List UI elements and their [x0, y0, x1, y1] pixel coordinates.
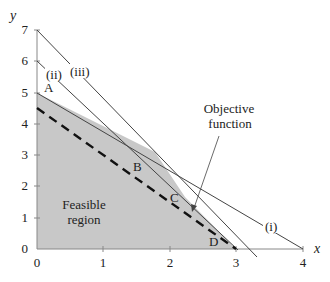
svg-text:6: 6: [22, 53, 29, 68]
svg-text:4: 4: [22, 116, 29, 131]
svg-text:2: 2: [167, 255, 174, 270]
svg-text:Objective: Objective: [204, 101, 255, 116]
vertex-b-label: B: [133, 159, 142, 174]
x-axis-label: x: [313, 241, 321, 256]
svg-text:4: 4: [300, 255, 307, 270]
line-iii-label: (iii): [70, 64, 90, 79]
svg-text:5: 5: [22, 85, 29, 100]
svg-text:function: function: [208, 116, 252, 131]
vertex-c-label: C: [170, 190, 179, 205]
y-tick-labels: 0 1 2 3 4 5 6 7: [22, 22, 29, 256]
svg-text:Feasible: Feasible: [62, 197, 106, 212]
y-axis-label: y: [8, 8, 17, 23]
line-i-label: (i): [265, 219, 277, 234]
svg-text:region: region: [67, 212, 101, 227]
svg-text:2: 2: [22, 178, 29, 193]
svg-text:3: 3: [233, 255, 240, 270]
svg-text:3: 3: [22, 147, 29, 162]
vertex-d-label: D: [209, 234, 218, 249]
lp-diagram: 0 1 2 3 4 0 1 2 3 4 5 6 7 x y (ii) (iii)…: [0, 0, 330, 282]
svg-text:0: 0: [22, 241, 29, 256]
svg-text:0: 0: [34, 255, 41, 270]
svg-text:1: 1: [22, 210, 29, 225]
x-tick-labels: 0 1 2 3 4: [34, 255, 307, 270]
feasible-region-label: Feasible region: [62, 197, 106, 227]
vertex-a-label: A: [44, 80, 54, 95]
svg-text:1: 1: [100, 255, 107, 270]
svg-text:7: 7: [22, 22, 29, 37]
objective-function-label: Objective function: [204, 101, 255, 131]
